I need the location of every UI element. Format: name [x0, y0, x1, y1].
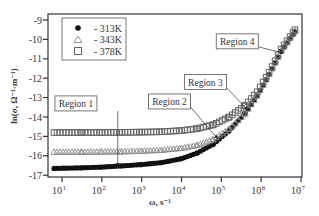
y-axis-ticks: -9-10-11-12-13-14-15-16-17	[29, 15, 48, 181]
annotation-region-3: Region 3	[184, 75, 247, 110]
legend-item: - 378K	[75, 46, 123, 57]
svg-text:Region 1: Region 1	[59, 99, 94, 109]
annotation-region-4: Region 4	[216, 34, 283, 53]
legend: - 313K- 343K- 378K	[62, 18, 126, 60]
y-tick-label: -14	[29, 112, 42, 123]
x-tick-label: 106	[251, 184, 266, 196]
x-tick-label: 102	[92, 184, 107, 196]
x-tick-label: 107	[291, 184, 306, 196]
x-axis-ticks: 101102103104105106107	[52, 177, 305, 196]
y-tick-label: -15	[29, 131, 42, 142]
y-tick-label: -16	[29, 150, 42, 161]
y-tick-label: -13	[29, 92, 42, 103]
y-axis-title: ln(σ, Ω⁻¹·m⁻¹)	[9, 68, 19, 124]
y-tick-label: -12	[29, 73, 42, 84]
svg-text:Region 4: Region 4	[220, 37, 255, 47]
svg-text:Region 2: Region 2	[152, 97, 187, 107]
conductivity-chart: ln(σ, Ω⁻¹·m⁻¹) ω, s⁻¹ -9-10-11-12-13-14-…	[0, 0, 319, 216]
legend-label: - 343K	[94, 34, 123, 45]
legend-label: - 313K	[94, 23, 123, 34]
y-tick-label: -10	[29, 34, 42, 45]
x-tick-label: 101	[52, 184, 67, 196]
svg-text:Region 3: Region 3	[188, 78, 223, 88]
y-tick-label: -9	[34, 15, 42, 26]
y-tick-label: -11	[29, 53, 42, 64]
filled-circle-icon	[75, 25, 81, 31]
x-axis-title: ω, s⁻¹	[149, 197, 171, 207]
x-tick-label: 105	[211, 184, 226, 196]
y-tick-label: -17	[29, 170, 42, 181]
x-tick-label: 104	[171, 184, 186, 196]
legend-label: - 378K	[94, 46, 123, 57]
x-tick-label: 103	[132, 184, 147, 196]
x-axis-label: ω, s⁻¹	[149, 197, 171, 207]
y-axis-label: ln(σ, Ω⁻¹·m⁻¹)	[9, 68, 19, 124]
